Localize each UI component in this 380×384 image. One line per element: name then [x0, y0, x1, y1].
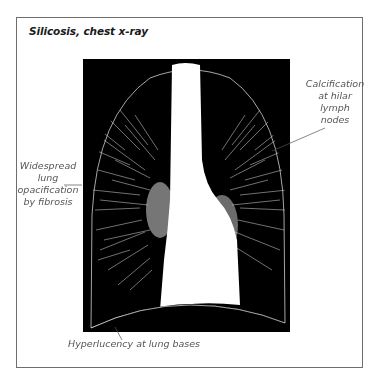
annotation-line: opacification	[17, 184, 79, 196]
annotation-line: Hyperlucency at lung bases	[68, 338, 200, 350]
annotation-line: by fibrosis	[17, 196, 79, 208]
annotation-line: lung	[17, 172, 79, 184]
annotation-calcification: Calcification at hilar lymph nodes	[299, 78, 371, 126]
annotation-line: at hilar	[299, 90, 371, 102]
annotation-line: Calcification	[299, 78, 371, 90]
annotation-line: nodes	[299, 114, 371, 126]
annotation-opacification: Widespread lung opacification by fibrosi…	[17, 160, 79, 208]
annotation-line: lymph	[299, 102, 371, 114]
annotation-line: Widespread	[17, 160, 79, 172]
annotation-hyperlucency: Hyperlucency at lung bases	[68, 338, 200, 350]
